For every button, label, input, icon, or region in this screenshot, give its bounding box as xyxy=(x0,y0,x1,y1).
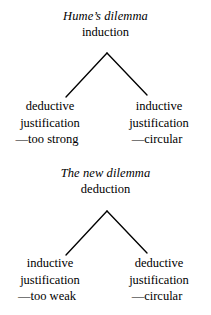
left-branch-line-2: justification xyxy=(2,272,98,289)
diagram-hume-branch-connector xyxy=(0,44,211,104)
right-branch-line-2: justification xyxy=(111,272,207,289)
branch-line-left xyxy=(66,211,107,255)
left-branch-line-2: justification xyxy=(2,115,98,132)
diagram-hume-dilemma: Hume’s dilemma induction deductive justi… xyxy=(0,0,211,155)
right-branch-line-1: inductive xyxy=(111,98,207,115)
branch-line-left xyxy=(66,53,107,97)
right-branch-verdict: —circular xyxy=(111,288,207,305)
left-branch-verdict: —too weak xyxy=(2,288,98,305)
diagram-hume-title: Hume’s dilemma xyxy=(0,9,211,24)
left-branch-line-1: inductive xyxy=(2,255,98,272)
right-branch-line-2: justification xyxy=(111,115,207,132)
left-branch-verdict: —too strong xyxy=(2,131,98,148)
diagram-new-header: The new dilemma deduction xyxy=(0,166,211,197)
diagram-new-dilemma: The new dilemma deduction inductive just… xyxy=(0,158,211,315)
branch-line-right xyxy=(107,211,147,253)
right-branch-line-1: deductive xyxy=(111,255,207,272)
dilemma-figure: Hume’s dilemma induction deductive justi… xyxy=(0,0,211,315)
diagram-hume-left-branch-label: deductive justification —too strong xyxy=(2,98,98,148)
diagram-new-left-branch-label: inductive justification —too weak xyxy=(2,255,98,305)
right-branch-verdict: —circular xyxy=(111,131,207,148)
branch-line-right xyxy=(107,53,147,95)
diagram-new-title: The new dilemma xyxy=(0,166,211,181)
diagram-new-right-branch-label: deductive justification —circular xyxy=(111,255,207,305)
left-branch-line-1: deductive xyxy=(2,98,98,115)
diagram-hume-subject: induction xyxy=(0,24,211,40)
diagram-hume-right-branch-label: inductive justification —circular xyxy=(111,98,207,148)
diagram-new-subject: deduction xyxy=(0,181,211,197)
diagram-new-branch-connector xyxy=(0,202,211,262)
diagram-hume-header: Hume’s dilemma induction xyxy=(0,9,211,40)
